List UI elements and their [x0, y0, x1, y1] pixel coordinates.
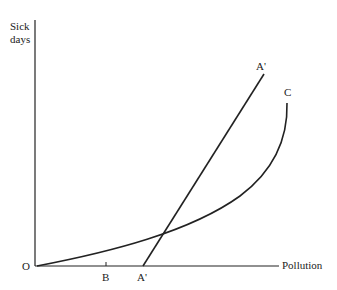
x-axis-label: Pollution [282, 259, 323, 271]
origin-label: O [22, 260, 30, 272]
y-axis-label-line1: Sick [10, 20, 30, 32]
diagram-canvas: Sick days Pollution O B A' A' C [0, 0, 337, 290]
tick-b-label: B [102, 271, 109, 283]
curve-c-label: C [284, 86, 291, 98]
line-a-prime [143, 74, 264, 266]
line-a-top-label: A' [256, 60, 266, 72]
curve-c [37, 103, 287, 266]
y-axis-label-line2: days [10, 33, 30, 45]
line-a-bottom-label: A' [137, 271, 147, 283]
